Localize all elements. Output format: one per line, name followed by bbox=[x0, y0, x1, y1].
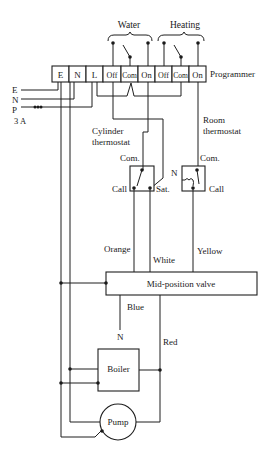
terminal-water-on: On bbox=[141, 70, 152, 80]
water-on-to-cylinder-com-wire bbox=[143, 82, 148, 168]
junction-dot bbox=[68, 367, 72, 371]
orange-wire-label: Orange bbox=[104, 244, 131, 254]
cylinder-sat-label: Sat. bbox=[156, 184, 170, 194]
valve-label: Mid-position valve bbox=[147, 279, 216, 289]
programmer-label: Programmer bbox=[210, 69, 255, 79]
terminal-l: L bbox=[92, 70, 98, 80]
junction-dot bbox=[100, 429, 104, 433]
junction-dot bbox=[158, 368, 162, 372]
terminal-e: E bbox=[58, 70, 64, 80]
terminal-heating-off: Off bbox=[158, 71, 169, 80]
heating-switch bbox=[162, 41, 200, 66]
supply-n-label: N bbox=[12, 95, 19, 105]
blue-wire-label: Blue bbox=[127, 302, 144, 312]
white-wire-label: White bbox=[153, 255, 175, 265]
terminal-n: N bbox=[74, 70, 81, 80]
wiring-diagram: Water Heating E N L Off Com bbox=[0, 0, 271, 461]
blue-neutral-label: N bbox=[117, 332, 124, 342]
room-thermostat bbox=[182, 166, 205, 191]
red-wire-label: Red bbox=[163, 337, 178, 347]
red-wire bbox=[136, 295, 160, 422]
room-com-label: Com. bbox=[200, 153, 220, 163]
fuse-rating-label: 3 A bbox=[14, 116, 27, 126]
cylinder-call-label: Call bbox=[112, 184, 127, 194]
programmer-terminal-block: E N L Off Com On Off Com On bbox=[52, 66, 206, 82]
terminal-heating-on: On bbox=[192, 70, 203, 80]
cylinder-thermostat-label-2: thermostat bbox=[92, 137, 130, 147]
supply-e-label: E bbox=[12, 85, 18, 95]
water-brace bbox=[108, 32, 152, 41]
water-switch bbox=[111, 41, 150, 66]
boiler-label: Boiler bbox=[107, 364, 130, 374]
cylinder-thermostat-label-1: Cylinder bbox=[92, 126, 124, 136]
terminal-water-off: Off bbox=[107, 71, 118, 80]
supply-p-label: P bbox=[12, 105, 17, 115]
room-thermostat-label-2: thermostat bbox=[203, 126, 241, 136]
room-call-label: Call bbox=[209, 184, 224, 194]
water-label: Water bbox=[118, 20, 141, 30]
junction-dot bbox=[96, 381, 100, 385]
yellow-wire-label: Yellow bbox=[197, 246, 223, 256]
live-com-jumper bbox=[97, 82, 181, 96]
supply-live-wire bbox=[21, 82, 92, 107]
cylinder-com-label: Com. bbox=[120, 153, 140, 163]
room-n-label: N bbox=[171, 168, 178, 178]
terminal-water-com: Com bbox=[122, 71, 137, 80]
junction-dot bbox=[104, 281, 108, 285]
supply-earth-wire bbox=[21, 82, 58, 90]
fuse-dot bbox=[40, 106, 43, 109]
heating-brace bbox=[158, 32, 204, 41]
pump-label: Pump bbox=[107, 417, 129, 427]
heating-label: Heating bbox=[170, 20, 200, 30]
terminal-heating-com: Com bbox=[173, 71, 188, 80]
cylinder-thermostat bbox=[130, 166, 154, 191]
fuse-dot bbox=[34, 106, 37, 109]
fuse-dot bbox=[37, 106, 40, 109]
junction-dot bbox=[59, 281, 63, 285]
room-thermostat-label-1: Room bbox=[203, 115, 225, 125]
junction-dot bbox=[59, 381, 63, 385]
